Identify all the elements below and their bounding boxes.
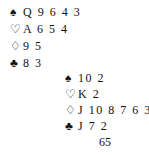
spade-icon: ♠ <box>65 70 78 86</box>
suit-row-hearts: ♡K 2 <box>65 86 100 102</box>
diamond-icon: ♢ <box>65 102 78 118</box>
suit-row-diamonds: ♢9 5 <box>10 38 43 54</box>
club-icon: ♣ <box>65 118 78 134</box>
suit-row-clubs: ♣J 7 2 <box>65 118 108 134</box>
club-icon: ♣ <box>10 55 23 71</box>
suit-row-diamonds: ♢J 10 8 7 6 3 <box>65 102 149 118</box>
heart-icon: ♡ <box>10 21 23 37</box>
cards-spades: Q 9 6 4 3 <box>23 5 81 19</box>
suit-row-clubs: ♣8 3 <box>10 55 43 71</box>
heart-icon: ♡ <box>65 86 78 102</box>
spade-icon: ♠ <box>10 4 23 20</box>
cards-diamonds: 9 5 <box>23 39 43 53</box>
suit-row-hearts: ♡A 6 5 4 <box>10 21 69 37</box>
cards-clubs: 8 3 <box>23 56 43 70</box>
cards-spades: 10 2 <box>78 71 105 85</box>
diamond-icon: ♢ <box>10 38 23 54</box>
cards-hearts: A 6 5 4 <box>23 22 69 36</box>
suit-row-spades: ♠10 2 <box>65 70 105 86</box>
cards-clubs: J 7 2 <box>78 119 108 133</box>
cards-diamonds: J 10 8 7 6 3 <box>78 103 149 117</box>
cards-hearts: K 2 <box>78 87 100 101</box>
footnote-number: 65 <box>99 134 111 150</box>
suit-row-spades: ♠Q 9 6 4 3 <box>10 4 81 20</box>
